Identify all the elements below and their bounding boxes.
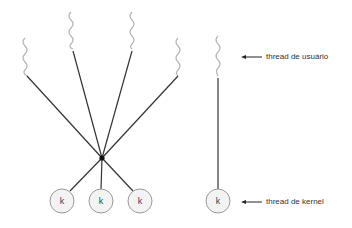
- user-thread-squiggle-2: [69, 12, 73, 49]
- user-thread-squiggle-right: [216, 36, 220, 76]
- kernel-thread-label-3: k: [138, 196, 143, 206]
- kernel-thread-label-2: k: [99, 196, 104, 206]
- user-thread-squiggle-4: [176, 38, 180, 76]
- junction-dot: [99, 155, 104, 160]
- kernel-thread-label-1: k: [60, 196, 65, 206]
- mapping-lines: [27, 51, 218, 191]
- user-thread-squiggle-1: [23, 38, 27, 76]
- user-thread-squiggle-3: [130, 12, 134, 49]
- arrow-head-kernel-icon: [241, 200, 246, 204]
- threading-diagram: k k k k: [0, 0, 352, 228]
- label-arrows: [244, 57, 262, 202]
- user-thread-squiggles: [23, 12, 220, 76]
- arrow-head-user-icon: [241, 55, 246, 59]
- kernel-thread-label-right: k: [216, 196, 221, 206]
- label-kernel-thread: thread de kernel: [266, 197, 324, 206]
- label-user-thread: thread de usuário: [266, 52, 328, 61]
